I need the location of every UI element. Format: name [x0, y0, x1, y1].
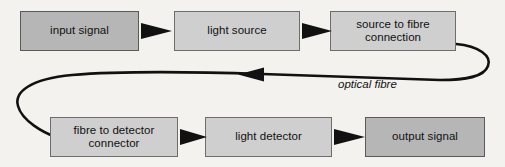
node-fibre-to-detector-connector[interactable]: fibre to detector connector [50, 117, 178, 157]
optical-fibre-arrowhead [238, 68, 264, 82]
node-light-source-label: light source [204, 24, 269, 37]
node-output-signal-label: output signal [389, 130, 461, 143]
arrow-input-to-light-source [141, 23, 172, 39]
optical-fibre-link-diagram: input signal light source source to fibr… [0, 0, 505, 167]
node-fibre-to-detector-connector-label: fibre to detector connector [71, 124, 158, 150]
node-input-signal[interactable]: input signal [20, 11, 139, 51]
node-light-detector[interactable]: light detector [205, 117, 332, 157]
arrow-connector-to-light-detector [180, 129, 207, 145]
node-source-to-fibre-connection-line1: source to fibre [356, 18, 430, 30]
optical-fibre-label: optical fibre [338, 78, 397, 90]
node-fibre-to-detector-connector-line2: connector [89, 137, 140, 149]
node-source-to-fibre-connection-line2: connection [365, 31, 421, 43]
node-light-source[interactable]: light source [174, 11, 300, 51]
node-source-to-fibre-connection[interactable]: source to fibre connection [330, 11, 456, 51]
arrow-light-detector-to-output [334, 129, 365, 145]
node-input-signal-label: input signal [47, 24, 112, 37]
node-output-signal[interactable]: output signal [365, 117, 485, 157]
arrow-light-source-to-source-to-fibre [302, 23, 332, 39]
node-light-detector-label: light detector [232, 130, 305, 143]
node-source-to-fibre-connection-label: source to fibre connection [353, 18, 433, 44]
node-fibre-to-detector-connector-line1: fibre to detector [74, 124, 155, 136]
